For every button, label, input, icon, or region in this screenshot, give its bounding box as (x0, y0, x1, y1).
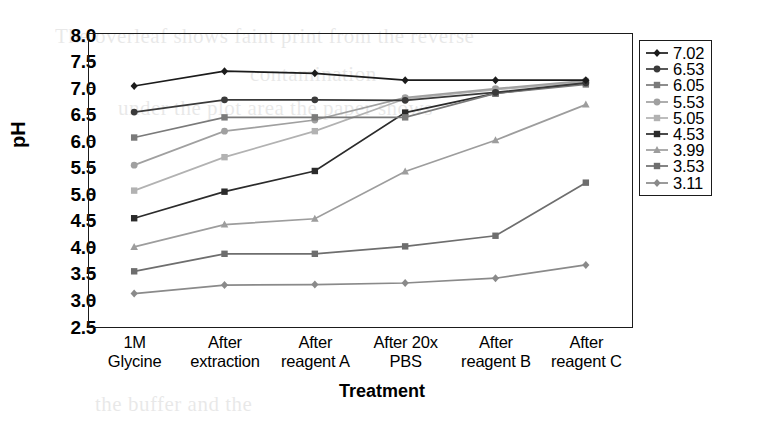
data-point-marker (402, 114, 408, 120)
legend-label: 3.53 (670, 158, 704, 174)
legend-swatch-icon (644, 158, 670, 174)
data-point-marker (221, 114, 227, 120)
data-point-marker (312, 168, 318, 174)
y-axis-tick-label: 5.5 (36, 158, 96, 177)
series-6.53 (131, 79, 589, 115)
data-point-marker (131, 134, 137, 140)
legend-item[interactable]: 3.11 (644, 175, 704, 191)
y-axis-tick-label: 8.0 (36, 26, 96, 45)
series-line (134, 265, 586, 294)
data-point-marker (221, 281, 228, 289)
ph-treatment-line-chart: pH 2.53.03.54.04.55.05.56.06.57.07.58.0 … (0, 0, 764, 423)
data-point-marker (492, 233, 498, 239)
y-axis-tick-label: 6.5 (36, 105, 96, 124)
legend-label: 7.02 (670, 45, 704, 61)
y-axis-tick-label: 7.5 (36, 52, 96, 71)
legend-label: 6.53 (670, 61, 704, 77)
data-point-marker (402, 97, 409, 104)
data-point-marker (131, 290, 138, 298)
legend-label: 3.11 (670, 175, 703, 191)
data-point-marker (131, 187, 137, 193)
legend-item[interactable]: 5.05 (644, 110, 704, 126)
data-point-marker (582, 261, 589, 269)
series-line (134, 84, 586, 137)
data-point-marker (654, 82, 660, 88)
series-line (134, 71, 586, 86)
data-point-marker (221, 154, 227, 160)
y-axis-title: pH (7, 121, 30, 148)
legend-label: 3.99 (670, 142, 704, 158)
y-axis-tick-label: 3.5 (36, 264, 96, 283)
legend-swatch-icon (644, 142, 670, 158)
data-point-marker (312, 114, 318, 120)
data-point-marker (402, 279, 409, 287)
legend-swatch-icon (644, 61, 670, 77)
data-point-marker (492, 76, 499, 84)
data-point-marker (131, 215, 137, 221)
data-point-marker (583, 179, 589, 185)
legend-swatch-icon (644, 126, 670, 142)
legend-item[interactable]: 3.53 (644, 158, 704, 174)
x-axis-tick-label: Afterreagent C (528, 333, 644, 371)
legend-item[interactable]: 7.02 (644, 45, 704, 61)
y-axis-tick-label: 4.5 (36, 211, 96, 230)
series-canvas (89, 34, 631, 326)
legend-item[interactable]: 5.53 (644, 94, 704, 110)
y-axis-tick-label: 6.0 (36, 132, 96, 151)
legend-label: 6.05 (670, 77, 704, 93)
data-point-marker (312, 251, 318, 257)
data-point-marker (221, 128, 228, 135)
series-5.05 (131, 79, 589, 194)
data-point-marker (654, 115, 660, 121)
data-point-marker (312, 128, 318, 134)
legend-item[interactable]: 4.53 (644, 126, 704, 142)
plot-area (88, 33, 633, 328)
data-point-marker (582, 101, 590, 108)
data-point-marker (402, 243, 408, 249)
legend-swatch-icon (644, 77, 670, 93)
data-point-marker (311, 96, 318, 103)
legend-item[interactable]: 6.05 (644, 77, 704, 93)
legend-swatch-icon (644, 94, 670, 110)
data-point-marker (311, 69, 318, 77)
data-point-marker (221, 96, 228, 103)
data-point-marker (311, 281, 318, 289)
legend-item[interactable]: 6.53 (644, 61, 704, 77)
legend-label: 4.53 (670, 126, 704, 142)
y-axis-tick-label: 5.0 (36, 185, 96, 204)
x-axis-title: Treatment (0, 381, 764, 402)
legend: 7.026.536.055.535.054.533.993.533.11 (639, 40, 712, 196)
data-point-marker (221, 67, 228, 75)
legend-swatch-icon (644, 110, 670, 126)
legend-item[interactable]: 3.99 (644, 142, 704, 158)
data-point-marker (654, 131, 660, 137)
data-point-marker (221, 188, 227, 194)
data-point-marker (653, 179, 660, 187)
data-point-marker (492, 274, 499, 282)
data-point-marker (653, 49, 660, 57)
series-3.11 (131, 261, 590, 298)
series-line (134, 105, 586, 247)
data-point-marker (654, 98, 661, 105)
data-point-marker (131, 82, 138, 90)
data-point-marker (492, 89, 499, 96)
data-point-marker (221, 251, 227, 257)
x-axis-tick-label-line: After (528, 333, 644, 352)
legend-label: 5.53 (670, 94, 704, 110)
y-axis-tick-label: 7.0 (36, 79, 96, 98)
data-point-marker (402, 76, 409, 84)
data-point-marker (131, 162, 138, 169)
series-3.53 (131, 179, 589, 274)
y-axis-tick-label: 3.0 (36, 291, 96, 310)
data-point-marker (654, 163, 660, 169)
legend-swatch-icon (644, 175, 670, 191)
series-line (134, 82, 586, 191)
x-axis-tick-label-line: reagent C (528, 352, 644, 371)
data-point-marker (131, 268, 137, 274)
data-point-marker (131, 109, 138, 116)
y-axis-tick-label: 4.0 (36, 238, 96, 257)
data-point-marker (654, 66, 661, 73)
legend-label: 5.05 (670, 110, 704, 126)
legend-swatch-icon (644, 45, 670, 61)
